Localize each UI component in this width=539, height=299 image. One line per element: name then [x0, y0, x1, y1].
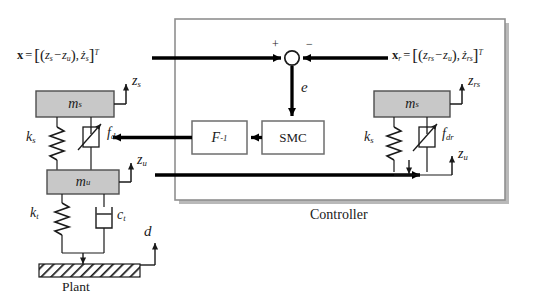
ref-sprung-disp-sub: rs	[473, 79, 480, 89]
ref-unsprung-disp-label: zu	[458, 147, 468, 162]
reference-term1a-sub: rs	[428, 54, 434, 63]
plant-comma: ,	[76, 48, 79, 62]
road-disturbance-label: d	[144, 224, 152, 239]
reference-state-vector-sub: r	[398, 54, 401, 63]
reference-state-vector-equals: =	[403, 48, 410, 62]
plant-tire-damper-label: ct	[117, 208, 126, 223]
plant-suspension-spring-sub: s	[32, 135, 35, 145]
finv-block-label[interactable]: F-1	[192, 121, 247, 154]
ref-suspension-spring-sub: s	[370, 135, 373, 145]
plant-minus: −	[54, 48, 61, 62]
summing-junction-circle	[285, 51, 299, 65]
plant-tire-spring	[55, 203, 69, 235]
plant-tire-damper-cup	[96, 207, 112, 228]
ref-sprung-mass-symbol: m	[405, 96, 415, 112]
ref-actuator-force-sub: dr	[446, 132, 454, 142]
plant-sprung-mass-symbol: m	[68, 96, 78, 112]
ground-hatch	[39, 264, 140, 277]
finv-symbol: F	[212, 130, 221, 146]
plant-state-vector-equals: =	[25, 48, 32, 62]
error-signal-label: e	[301, 80, 308, 95]
plant-unsprung-disp-sub: u	[142, 158, 146, 168]
reference-state-vector-label: xr=[(zrs−zu),żrs]T	[392, 47, 483, 64]
ref-unsprung-disp-sub: u	[463, 152, 467, 162]
plant-sprung-disp-label: zs	[132, 74, 141, 89]
reference-minus: −	[435, 48, 442, 62]
plant-transpose: T	[94, 48, 98, 57]
plant-sprung-mass-sub: s	[78, 99, 81, 109]
smc-block-label[interactable]: SMC	[262, 121, 324, 154]
plant-tire-damper-sub: t	[123, 213, 125, 223]
summing-junction-minus-label: −	[306, 38, 313, 50]
plant-unsprung-disp-label: zu	[137, 153, 147, 168]
plant-term1a-sub: s	[50, 54, 53, 63]
plant-unsprung-mass-symbol: m	[76, 174, 86, 190]
plant-sprung-mass-label: ms	[36, 91, 114, 117]
plant-tire-spring-label: kt	[30, 206, 39, 221]
plant-actuator-force-sub: d	[111, 131, 115, 141]
diagram-canvas: x=[(zs−zu),żs]T xr=[(zrs−zu),żrs]T + −…	[0, 0, 539, 299]
reference-transpose: T	[478, 48, 482, 57]
plant-suspension-spring-label: ks	[26, 130, 36, 145]
plant-state-vector-label: x=[(zs−zu),żs]T	[17, 47, 99, 64]
plant-actuator-force-label: fd	[107, 126, 115, 141]
plant-unsprung-mass-sub: u	[86, 177, 90, 187]
ref-sprung-mass-label: ms	[374, 91, 450, 117]
plant-unsprung-mass-label: mu	[47, 170, 119, 194]
ref-suspension-spring-label: ks	[364, 130, 374, 145]
ref-sprung-mass-sub: s	[415, 99, 418, 109]
summing-junction-plus-label: +	[272, 38, 279, 50]
finv-exponent: -1	[220, 133, 227, 143]
controller-label: Controller	[310, 208, 368, 222]
ref-sprung-disp-label: zrs	[468, 74, 480, 89]
plant-tire-spring-sub: t	[36, 211, 38, 221]
plant-caption-label: Plant	[62, 280, 90, 294]
plant-sprung-disp-sub: s	[137, 79, 140, 89]
plant-suspension-spring	[50, 127, 64, 160]
ref-actuator-force-label: fdr	[442, 127, 454, 142]
reference-comma: ,	[457, 48, 460, 62]
plant-state-vector-symbol: x	[17, 48, 23, 62]
